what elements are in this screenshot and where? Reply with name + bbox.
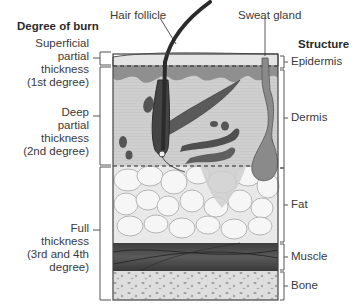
bone-layer — [113, 271, 278, 300]
degree-of-burn-heading: Degree of burn — [17, 20, 99, 32]
structure-brackets — [280, 56, 288, 300]
burn-degree-2nd: Deep partial thickness (2nd degree) — [23, 106, 89, 158]
structure-fat: Fat — [291, 198, 308, 211]
structure-bone: Bone — [291, 279, 318, 292]
structure-dermis: Dermis — [291, 111, 327, 124]
burn-degree-1st: Superficial partial thickness (1st degre… — [27, 37, 89, 89]
structure-epidermis: Epidermis — [291, 55, 342, 68]
hair-follicle-label: Hair follicle — [110, 9, 166, 22]
sweat-gland-label: Sweat gland — [238, 9, 301, 22]
burn-degree-brackets — [93, 52, 111, 300]
muscle-layer — [113, 243, 278, 271]
structure-muscle: Muscle — [291, 250, 327, 263]
burn-degree-3rd-4th: Full thickness (3rd and 4th degree) — [27, 222, 89, 274]
structure-heading: Structure — [298, 38, 349, 50]
fat-layer — [113, 166, 279, 248]
